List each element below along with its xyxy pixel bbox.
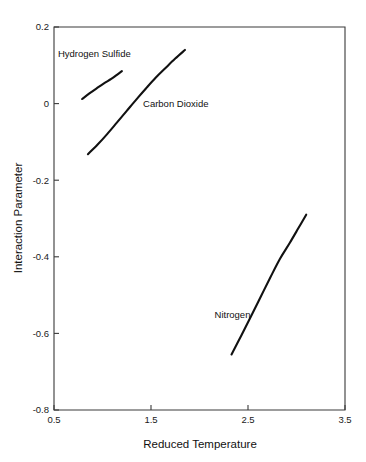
series-annotation-label: Hydrogen Sulfide bbox=[58, 48, 131, 59]
y-tick-label: -0.4 bbox=[33, 251, 49, 262]
x-tick-label: 1.5 bbox=[144, 414, 157, 425]
interaction-parameter-chart: 0.20-0.2-0.4-0.6-0.8 0.51.52.53.5 Hydrog… bbox=[0, 0, 366, 462]
y-axis-title: Interaction Parameter bbox=[12, 163, 24, 274]
y-tick-label: -0.6 bbox=[33, 328, 49, 339]
x-tick-label: 3.5 bbox=[338, 414, 351, 425]
y-tick-label: 0 bbox=[44, 98, 49, 109]
y-tick-label: 0.2 bbox=[36, 21, 49, 32]
y-axis-ticks: 0.20-0.2-0.4-0.6-0.8 bbox=[33, 21, 59, 415]
x-tick-label: 2.5 bbox=[241, 414, 254, 425]
series-label-group: Hydrogen SulfideCarbon DioxideNitrogen bbox=[58, 48, 251, 320]
x-tick-label: 0.5 bbox=[47, 414, 60, 425]
y-tick-label: -0.2 bbox=[33, 175, 49, 186]
x-axis-ticks: 0.51.52.53.5 bbox=[47, 405, 351, 425]
data-series-group bbox=[82, 50, 306, 354]
series-annotation-label: Nitrogen bbox=[215, 309, 251, 320]
plot-frame bbox=[54, 27, 345, 410]
series-annotation-label: Carbon Dioxide bbox=[143, 98, 208, 109]
series-curve bbox=[232, 215, 307, 355]
chart-container: 0.20-0.2-0.4-0.6-0.8 0.51.52.53.5 Hydrog… bbox=[0, 0, 366, 462]
x-axis-title: Reduced Temperature bbox=[143, 438, 257, 450]
series-curve bbox=[82, 71, 122, 99]
